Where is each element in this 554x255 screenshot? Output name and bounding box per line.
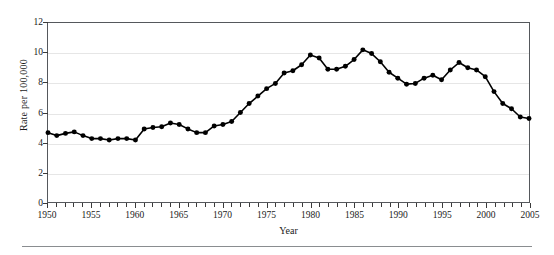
data-point-1964 — [168, 120, 173, 125]
data-point-1967 — [194, 130, 199, 135]
x-tick-mark-1980 — [311, 203, 312, 208]
data-point-1975 — [264, 86, 269, 91]
data-point-2002 — [500, 101, 505, 106]
data-point-1951 — [54, 133, 59, 138]
plot-area — [47, 22, 530, 203]
x-tick-mark-1956 — [100, 203, 101, 207]
data-point-2003 — [509, 106, 514, 111]
data-point-1969 — [212, 123, 217, 128]
data-point-1999 — [474, 68, 479, 73]
x-tick-mark-2005 — [530, 203, 531, 208]
x-tick-mark-1971 — [231, 203, 232, 207]
data-point-2004 — [518, 114, 523, 119]
data-point-1956 — [98, 136, 103, 141]
x-tick-mark-1951 — [56, 203, 57, 207]
data-point-1973 — [247, 101, 252, 106]
data-point-1972 — [238, 110, 243, 115]
y-tick-label-2: 2 — [23, 168, 43, 178]
data-point-1958 — [115, 136, 120, 141]
y-axis-tick-labels: 024681012 — [20, 22, 43, 203]
data-point-1980 — [308, 53, 313, 58]
y-tick-mark-2 — [43, 173, 48, 174]
x-tick-mark-1964 — [170, 203, 171, 207]
x-tick-label-1995: 1995 — [422, 209, 462, 221]
x-tick-label-1960: 1960 — [115, 209, 155, 221]
x-tick-mark-1957 — [109, 203, 110, 207]
data-point-1979 — [299, 62, 304, 67]
x-tick-mark-1966 — [188, 203, 189, 207]
x-tick-mark-2001 — [495, 203, 496, 207]
data-point-1985 — [352, 57, 357, 62]
x-tick-label-1950: 1950 — [27, 209, 67, 221]
x-tick-mark-1960 — [135, 203, 136, 208]
x-tick-mark-1994 — [433, 203, 434, 207]
x-tick-mark-1992 — [416, 203, 417, 207]
data-point-1994 — [430, 73, 435, 78]
x-tick-mark-1997 — [460, 203, 461, 207]
x-tick-mark-1975 — [267, 203, 268, 208]
data-point-1989 — [387, 70, 392, 75]
x-tick-mark-1988 — [381, 203, 382, 207]
data-point-1968 — [203, 130, 208, 135]
data-point-1998 — [465, 65, 470, 70]
x-tick-mark-1991 — [407, 203, 408, 207]
data-point-1977 — [282, 70, 287, 75]
data-point-1957 — [107, 138, 112, 143]
data-point-1988 — [378, 59, 383, 64]
data-point-1976 — [273, 81, 278, 86]
x-tick-mark-1961 — [144, 203, 145, 207]
x-tick-mark-1979 — [302, 203, 303, 207]
x-tick-mark-2003 — [512, 203, 513, 207]
x-tick-mark-1995 — [442, 203, 443, 208]
x-tick-label-1970: 1970 — [203, 209, 243, 221]
data-point-1954 — [80, 133, 85, 138]
data-point-1992 — [413, 81, 418, 86]
x-tick-mark-1990 — [398, 203, 399, 208]
data-point-1971 — [229, 119, 234, 124]
x-tick-label-1980: 1980 — [291, 209, 331, 221]
data-point-1993 — [422, 76, 427, 81]
series-markers — [46, 47, 532, 142]
x-tick-label-1975: 1975 — [247, 209, 287, 221]
data-point-1965 — [177, 122, 182, 127]
x-tick-mark-1968 — [205, 203, 206, 207]
x-tick-mark-1984 — [346, 203, 347, 207]
data-point-1978 — [290, 68, 295, 73]
y-tick-label-10: 10 — [23, 47, 43, 57]
x-tick-mark-1959 — [126, 203, 127, 207]
x-tick-mark-2000 — [486, 203, 487, 208]
x-tick-label-2000: 2000 — [466, 209, 506, 221]
y-tick-label-6: 6 — [23, 108, 43, 118]
data-point-1997 — [457, 60, 462, 65]
x-tick-label-1985: 1985 — [334, 209, 374, 221]
x-tick-label-1965: 1965 — [159, 209, 199, 221]
data-point-1974 — [255, 94, 260, 99]
x-tick-mark-1954 — [82, 203, 83, 207]
data-point-1960 — [133, 138, 138, 143]
x-tick-mark-1952 — [65, 203, 66, 207]
y-tick-mark-8 — [43, 82, 48, 83]
x-tick-mark-2002 — [504, 203, 505, 207]
x-tick-mark-1967 — [196, 203, 197, 207]
data-point-1950 — [46, 130, 51, 135]
data-point-1987 — [369, 51, 374, 56]
y-tick-label-4: 4 — [23, 138, 43, 148]
x-tick-mark-1974 — [258, 203, 259, 207]
x-tick-label-1990: 1990 — [378, 209, 418, 221]
x-tick-mark-1958 — [117, 203, 118, 207]
x-tick-mark-1972 — [240, 203, 241, 207]
data-point-1982 — [325, 67, 330, 72]
data-point-1959 — [124, 136, 129, 141]
data-point-1953 — [72, 129, 77, 134]
x-tick-mark-1973 — [249, 203, 250, 207]
data-point-1961 — [142, 126, 147, 131]
data-point-1955 — [89, 136, 94, 141]
x-axis-title: Year — [47, 225, 530, 236]
x-tick-mark-2004 — [521, 203, 522, 207]
x-tick-mark-1993 — [425, 203, 426, 207]
data-point-1990 — [395, 76, 400, 81]
data-point-1966 — [185, 126, 190, 131]
line-series-homicide-rate — [48, 23, 529, 202]
x-tick-mark-1969 — [214, 203, 215, 207]
data-point-2001 — [492, 89, 497, 94]
